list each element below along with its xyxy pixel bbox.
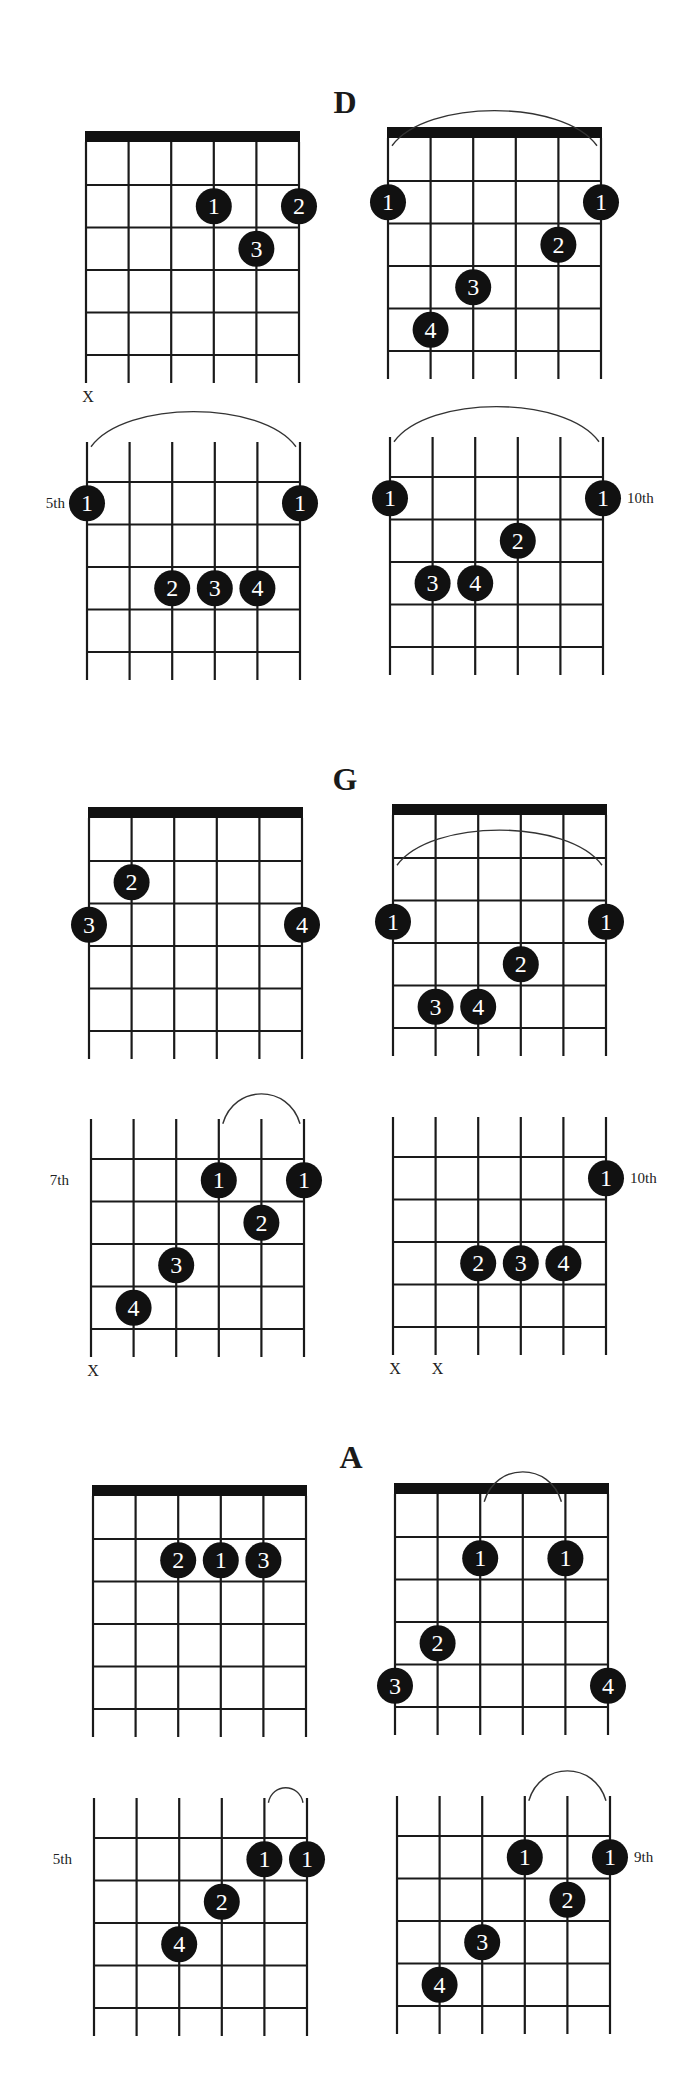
finger-dot: 3 (415, 565, 451, 601)
finger-dot: 1 (588, 904, 624, 940)
finger-number: 3 (389, 1673, 401, 1699)
finger-dot: 4 (284, 907, 320, 943)
finger-number: 4 (557, 1250, 569, 1276)
finger-dot: 1 (592, 1839, 628, 1875)
finger-dot: 1 (196, 188, 232, 224)
finger-number: 2 (293, 193, 305, 219)
finger-number: 4 (472, 994, 484, 1020)
finger-number: 2 (255, 1210, 267, 1236)
finger-dot: 4 (545, 1245, 581, 1281)
finger-dot: 4 (590, 1668, 626, 1704)
finger-number: 3 (83, 912, 95, 938)
fret-position-label: 5th (46, 495, 66, 511)
finger-number: 2 (166, 575, 178, 601)
muted-string-x: X (432, 1360, 444, 1377)
finger-dot: 2 (160, 1542, 196, 1578)
finger-dot: 4 (116, 1290, 152, 1326)
finger-dot: 1 (246, 1841, 282, 1877)
barre-arc (268, 1788, 303, 1803)
finger-number: 1 (595, 189, 607, 215)
finger-dot: 1 (507, 1839, 543, 1875)
finger-dot: 3 (71, 907, 107, 943)
nut (85, 131, 300, 142)
finger-number: 1 (81, 490, 93, 516)
chord-diagram-a-3: 11245th (53, 1788, 325, 2036)
finger-dot: 1 (201, 1162, 237, 1198)
finger-number: 2 (552, 232, 564, 258)
finger-dot: 1 (69, 485, 105, 521)
finger-dot: 2 (549, 1882, 585, 1918)
chord-diagram-a-1: 213 (92, 1485, 307, 1737)
finger-dot: 1 (462, 1540, 498, 1576)
finger-number: 4 (128, 1295, 140, 1321)
nut (92, 1485, 307, 1496)
finger-dot: 3 (158, 1247, 194, 1283)
finger-number: 1 (387, 909, 399, 935)
muted-string-x: X (82, 388, 94, 405)
finger-number: 3 (515, 1250, 527, 1276)
finger-number: 2 (432, 1630, 444, 1656)
fret-position-label: 7th (50, 1172, 70, 1188)
muted-string-x: X (389, 1360, 401, 1377)
chord-diagram-d-1: 123X (82, 131, 317, 405)
finger-dot: 3 (418, 989, 454, 1025)
finger-dot: 3 (377, 1668, 413, 1704)
nut (387, 127, 602, 138)
fret-position-label: 10th (627, 490, 654, 506)
finger-number: 1 (208, 193, 220, 219)
finger-number: 4 (251, 575, 263, 601)
finger-number: 3 (257, 1547, 269, 1573)
finger-dot: 1 (588, 1160, 624, 1196)
barre-arc (397, 830, 602, 865)
chord-diagram-a-4: 112349th (397, 1771, 654, 2034)
finger-number: 3 (476, 1929, 488, 1955)
finger-number: 1 (600, 909, 612, 935)
finger-number: 1 (597, 485, 609, 511)
chord-diagram-g-3: 11234X7th (50, 1094, 322, 1379)
finger-number: 1 (559, 1545, 571, 1571)
finger-number: 1 (215, 1547, 227, 1573)
finger-dot: 2 (420, 1625, 456, 1661)
finger-number: 4 (296, 912, 308, 938)
finger-number: 3 (430, 994, 442, 1020)
finger-dot: 2 (540, 227, 576, 263)
finger-number: 4 (173, 1931, 185, 1957)
finger-dot: 1 (289, 1841, 325, 1877)
finger-number: 4 (425, 317, 437, 343)
finger-number: 2 (561, 1887, 573, 1913)
chord-diagram-d-2: 11234 (370, 111, 619, 379)
finger-dot: 3 (455, 269, 491, 305)
finger-dot: 1 (370, 184, 406, 220)
finger-number: 2 (216, 1889, 228, 1915)
finger-dot: 2 (281, 188, 317, 224)
nut (88, 807, 303, 818)
finger-number: 3 (209, 575, 221, 601)
chord-diagram-g-4: 1234XX10th (389, 1117, 657, 1377)
finger-number: 2 (512, 528, 524, 554)
finger-dot: 4 (413, 312, 449, 348)
fret-position-label: 10th (630, 1170, 657, 1186)
chord-diagrams: 123X11234112345th1123410th2341123411234X… (0, 0, 695, 2095)
finger-number: 4 (602, 1673, 614, 1699)
chord-diagram-d-3: 112345th (46, 412, 318, 680)
finger-number: 1 (294, 490, 306, 516)
nut (392, 804, 607, 815)
finger-dot: 1 (203, 1542, 239, 1578)
finger-dot: 2 (114, 864, 150, 900)
fret-position-label: 9th (634, 1849, 654, 1865)
finger-number: 3 (170, 1252, 182, 1278)
finger-number: 1 (382, 189, 394, 215)
finger-dot: 2 (243, 1205, 279, 1241)
chord-diagram-g-1: 234 (71, 807, 320, 1059)
finger-number: 1 (298, 1167, 310, 1193)
finger-dot: 4 (161, 1926, 197, 1962)
chord-diagram-g-2: 11234 (375, 804, 624, 1056)
barre-arc (394, 407, 599, 442)
finger-number: 4 (434, 1972, 446, 1998)
finger-dot: 3 (197, 570, 233, 606)
finger-number: 2 (172, 1547, 184, 1573)
finger-dot: 4 (457, 565, 493, 601)
finger-dot: 3 (503, 1245, 539, 1281)
finger-dot: 1 (282, 485, 318, 521)
finger-dot: 3 (464, 1924, 500, 1960)
